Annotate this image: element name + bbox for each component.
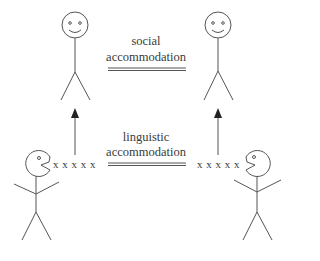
linguistic-label: linguistic <box>96 130 196 145</box>
top-right-person-figure <box>204 12 233 100</box>
smiley-head-icon <box>62 12 88 38</box>
social-accommodation-label: accommodation <box>96 50 196 65</box>
arrow-up-left-icon <box>71 108 79 155</box>
pacman-head-icon <box>246 151 270 177</box>
speech-right: x x x x x <box>197 158 240 170</box>
linguistic-double-line <box>108 163 186 166</box>
pacman-head-icon <box>26 151 50 177</box>
smiley-head-icon <box>205 12 231 38</box>
bottom-right-speaker-figure <box>234 151 281 241</box>
arrow-up-right-icon <box>214 108 222 155</box>
social-double-line <box>108 68 186 71</box>
speech-left: x x x x x <box>53 158 96 170</box>
linguistic-accommodation-label: accommodation <box>96 145 196 160</box>
social-label: social <box>96 34 196 49</box>
top-left-person-figure <box>61 12 90 100</box>
